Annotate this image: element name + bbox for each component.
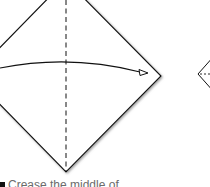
step-caption: Crease the middle of <box>0 178 119 187</box>
next-step-diamond-partial <box>198 56 210 92</box>
origami-fold-diagram <box>0 0 210 187</box>
step-bullet-icon <box>0 182 5 187</box>
square-paper-diamond <box>0 0 161 172</box>
caption-text: Crease the middle of <box>8 178 119 187</box>
